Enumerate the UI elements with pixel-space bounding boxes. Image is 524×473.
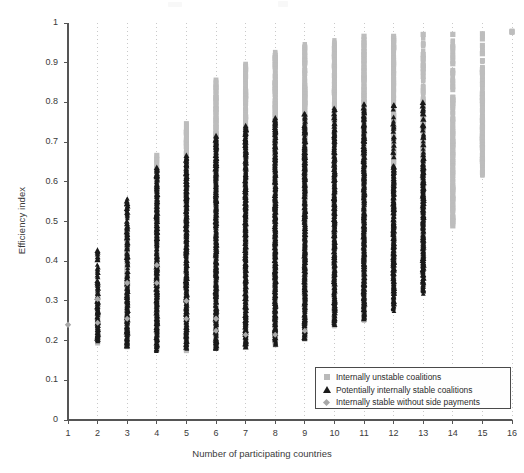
x-tick-label: 8 xyxy=(263,428,287,438)
x-tick-label: 6 xyxy=(204,428,228,438)
x-tick-label: 15 xyxy=(470,428,494,438)
y-tick-label: 0.1 xyxy=(28,374,58,384)
efficiency-index-scatter-figure: Efficiency index Number of participating… xyxy=(0,0,524,473)
x-tick-label: 16 xyxy=(500,428,524,438)
y-tick-label: 0.7 xyxy=(28,136,58,146)
legend-item-unstable: Internally unstable coalitions xyxy=(321,371,505,384)
y-tick-label: 0.3 xyxy=(28,295,58,305)
x-tick-label: 5 xyxy=(174,428,198,438)
x-tick-label: 11 xyxy=(352,428,376,438)
y-axis-title: Efficiency index xyxy=(16,156,27,286)
x-tick-label: 9 xyxy=(293,428,317,438)
y-tick-label: 0.2 xyxy=(28,335,58,345)
y-tick-label: 0 xyxy=(28,414,58,424)
legend-label-stable-no-side-payments: Internally stable without side payments xyxy=(336,397,480,407)
y-tick-label: 0.4 xyxy=(28,255,58,265)
x-tick-label: 14 xyxy=(441,428,465,438)
x-tick-label: 13 xyxy=(411,428,435,438)
legend: Internally unstable coalitions Potential… xyxy=(315,367,511,409)
diamond-marker-icon xyxy=(321,397,332,408)
square-marker-icon xyxy=(321,372,332,383)
x-tick-label: 10 xyxy=(322,428,346,438)
legend-label-potentially-stable: Potentially internally stable coalitions xyxy=(336,385,472,395)
legend-item-potentially-stable: Potentially internally stable coalitions xyxy=(321,384,505,397)
x-tick-label: 4 xyxy=(145,428,169,438)
x-tick-label: 1 xyxy=(56,428,80,438)
x-tick-label: 12 xyxy=(382,428,406,438)
x-tick-label: 2 xyxy=(86,428,110,438)
legend-item-stable-no-side-payments: Internally stable without side payments xyxy=(321,396,505,409)
y-tick-label: 1 xyxy=(28,17,58,27)
x-axis-title: Number of participating countries xyxy=(0,448,524,459)
triangle-marker-icon xyxy=(321,384,332,395)
y-tick-label: 0.5 xyxy=(28,216,58,226)
legend-label-unstable: Internally unstable coalitions xyxy=(336,372,441,382)
y-tick-label: 0.6 xyxy=(28,176,58,186)
y-tick-label: 0.9 xyxy=(28,57,58,67)
x-tick-label: 7 xyxy=(234,428,258,438)
y-tick-label: 0.8 xyxy=(28,96,58,106)
x-tick-label: 3 xyxy=(115,428,139,438)
